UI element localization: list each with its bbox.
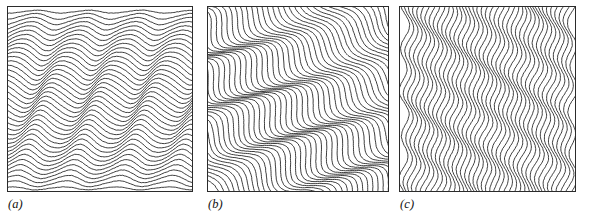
panel-b-label: (b) [208, 198, 223, 211]
panel-a-label: (a) [8, 198, 23, 211]
figure-root: (a) (b) (c) [0, 0, 590, 213]
panel-c-frame [399, 6, 576, 192]
panel-c-label: (c) [400, 198, 414, 211]
panel-b-frame [207, 6, 389, 192]
panel-a-frame [7, 6, 193, 192]
